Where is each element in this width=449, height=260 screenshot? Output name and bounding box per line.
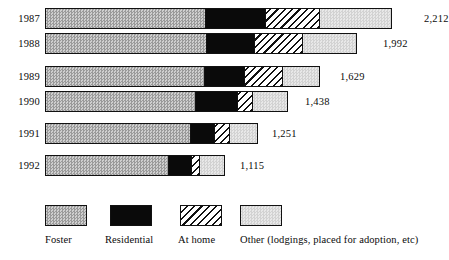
year-label: 1987 [0, 13, 40, 24]
bar-segment-foster[interactable] [46, 92, 195, 111]
stacked-bar[interactable] [45, 66, 320, 87]
bar-total-label: 1,992 [383, 38, 408, 49]
legend-item-athome[interactable]: At home [180, 205, 222, 226]
bar-segment-other[interactable] [252, 92, 287, 111]
legend-swatch-residential [110, 205, 152, 226]
legend-item-other[interactable]: Other (lodgings, placed for adoption, et… [240, 205, 282, 226]
legend-item-residential[interactable]: Residential [110, 205, 152, 226]
bar-segment-athome[interactable] [254, 34, 303, 53]
bar-total-label: 1,115 [240, 160, 264, 171]
bar-segment-residential[interactable] [168, 156, 192, 175]
bar-segment-athome[interactable] [214, 124, 229, 143]
bar-segment-residential[interactable] [204, 67, 244, 86]
stacked-bar[interactable] [45, 91, 288, 112]
bar-segment-foster[interactable] [46, 34, 206, 53]
bar-segment-foster[interactable] [46, 124, 190, 143]
bar-row: 19911,251 [0, 123, 449, 144]
bar-segment-residential[interactable] [195, 92, 238, 111]
bar-row: 19901,438 [0, 91, 449, 112]
bar-segment-athome[interactable] [237, 92, 252, 111]
bar-total-label: 2,212 [424, 13, 449, 24]
bar-segment-foster[interactable] [46, 9, 205, 28]
bar-segment-residential[interactable] [190, 124, 215, 143]
bar-row: 19921,115 [0, 155, 449, 176]
chart-legend: FosterResidentialAt homeOther (lodgings,… [0, 205, 449, 255]
bar-segment-foster[interactable] [46, 67, 204, 86]
bar-segment-athome[interactable] [244, 67, 283, 86]
legend-label-athome: At home [178, 234, 215, 246]
year-label: 1992 [0, 160, 40, 171]
stacked-bar[interactable] [45, 33, 357, 54]
bar-segment-other[interactable] [229, 124, 257, 143]
bar-segment-athome[interactable] [265, 9, 320, 28]
legend-swatch-foster [45, 205, 87, 226]
legend-label-foster: Foster [45, 234, 72, 246]
stacked-bar[interactable] [45, 8, 392, 29]
year-label: 1990 [0, 96, 40, 107]
bar-segment-other[interactable] [282, 67, 319, 86]
legend-swatch-other [240, 205, 282, 226]
bar-segment-other[interactable] [199, 156, 224, 175]
legend-swatch-athome [180, 205, 222, 226]
bar-row: 19881,992 [0, 33, 449, 54]
stacked-bar[interactable] [45, 123, 258, 144]
bar-segment-residential[interactable] [205, 9, 265, 28]
bar-segment-foster[interactable] [46, 156, 168, 175]
legend-label-residential: Residential [105, 234, 153, 246]
bar-total-label: 1,438 [305, 96, 330, 107]
bar-row: 19872,212 [0, 8, 449, 29]
legend-label-other: Other (lodgings, placed for adoption, et… [240, 234, 418, 246]
year-label: 1989 [0, 71, 40, 82]
stacked-bar[interactable] [45, 155, 225, 176]
bar-segment-athome[interactable] [191, 156, 199, 175]
bar-segment-other[interactable] [302, 34, 356, 53]
bar-segment-residential[interactable] [206, 34, 254, 53]
bar-segment-other[interactable] [319, 9, 391, 28]
bar-total-label: 1,629 [340, 71, 365, 82]
bar-total-label: 1,251 [272, 128, 297, 139]
bar-row: 19891,629 [0, 66, 449, 87]
legend-item-foster[interactable]: Foster [45, 205, 87, 226]
year-label: 1988 [0, 38, 40, 49]
stacked-bar-chart: 19872,21219881,99219891,62919901,4381991… [0, 0, 449, 260]
year-label: 1991 [0, 128, 40, 139]
